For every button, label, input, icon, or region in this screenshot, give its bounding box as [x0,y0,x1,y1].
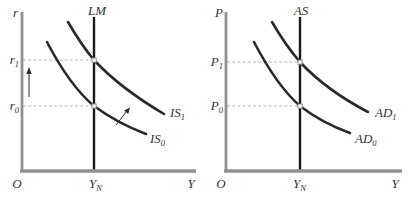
rate-rise-arrowhead [26,67,31,74]
ad0-label: AD0 [354,131,377,148]
p-axis-label: P [214,5,223,20]
ad1-as-intersection-marker [298,60,302,64]
right-origin-label: O [216,176,226,191]
ad1-curve [272,22,368,112]
ad1-label: AD1 [374,105,397,122]
r1-label: r1 [10,52,19,69]
lm-label: LM [87,3,107,18]
ad0-curve [254,42,350,133]
islm-adas-figure: r LM r1 r0 IS1 IS0 O YN Y [0,0,409,197]
is-lm-panel: r LM r1 r0 IS1 IS0 O YN Y [0,0,204,197]
left-y-output-label: Y [187,176,196,191]
is1-lm-intersection-marker [92,58,96,62]
is0-label: IS0 [149,131,166,148]
ad0-as-intersection-marker [298,104,302,108]
left-yn-tick-label: YN [89,176,103,193]
ad-as-panel: P AS P1 P0 AD1 AD0 O YN Y [204,0,409,197]
is1-curve [68,22,164,114]
is0-lm-intersection-marker [92,104,96,108]
is1-label: IS1 [169,105,185,122]
p0-label: P0 [210,98,224,115]
is0-curve [47,42,146,134]
is-lm-plot: r LM r1 r0 IS1 IS0 O YN Y [0,0,204,197]
p1-label: P1 [210,54,223,71]
ad-as-plot: P AS P1 P0 AD1 AD0 O YN Y [204,0,409,197]
r-axis-label: r [13,5,19,20]
right-yn-tick-label: YN [293,176,307,193]
as-label: AS [293,3,309,18]
r0-label: r0 [10,98,20,115]
right-y-output-label: Y [391,176,400,191]
left-origin-label: O [12,176,22,191]
